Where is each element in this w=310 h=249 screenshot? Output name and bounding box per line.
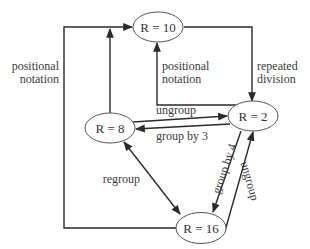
label-regroup: regroup — [103, 172, 140, 186]
label-group-by-3: group by 3 — [156, 129, 208, 143]
node-r8: R = 8 — [85, 113, 135, 143]
label-inner-positional-line2: notation — [162, 72, 201, 86]
label-inner-positional-line1: positional — [162, 59, 210, 73]
label-ungroup-r16-r2: ungroup — [238, 160, 262, 202]
label-repeated-division-line1: repeated — [257, 59, 298, 73]
radix-conversion-diagram: R = 10 R = 8 R = 2 R = 16 positional not… — [0, 0, 310, 249]
node-r16: R = 16 — [176, 213, 226, 244]
label-repeated-division-line2: division — [257, 72, 296, 86]
node-r2-label: R = 2 — [238, 109, 267, 124]
node-r16-label: R = 16 — [183, 221, 219, 236]
label-left-positional-line1: positional — [12, 59, 60, 73]
diagram-svg: R = 10 R = 8 R = 2 R = 16 positional not… — [0, 0, 310, 249]
node-r10: R = 10 — [133, 12, 183, 42]
label-ungroup-r8-r2: ungroup — [156, 103, 196, 117]
label-left-positional-line2: notation — [20, 72, 59, 86]
label-group-by-4: group by 4 — [209, 142, 239, 196]
node-r8-label: R = 8 — [95, 121, 124, 136]
node-r2: R = 2 — [228, 101, 278, 131]
node-r10-label: R = 10 — [140, 20, 176, 35]
